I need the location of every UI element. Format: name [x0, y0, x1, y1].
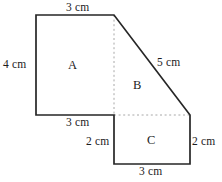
dimension-label-top-3cm: 3 cm	[66, 2, 89, 14]
dimension-label-left-4cm: 4 cm	[3, 59, 26, 71]
dimension-label-left-2cm: 2 cm	[86, 136, 109, 148]
region-label-a: A	[68, 59, 77, 72]
region-label-b: B	[133, 79, 142, 92]
region-label-c: C	[147, 134, 156, 147]
geometry-figure: 3 cm 4 cm 5 cm 3 cm 2 cm 2 cm 3 cm A B C	[0, 0, 222, 182]
dimension-label-bottom-3cm: 3 cm	[139, 166, 162, 178]
dimension-label-hypotenuse-5cm: 5 cm	[157, 57, 180, 69]
figure-canvas	[0, 0, 222, 182]
dimension-label-right-2cm: 2 cm	[192, 136, 215, 148]
dimension-label-middle-bottom-3cm: 3 cm	[66, 117, 89, 129]
